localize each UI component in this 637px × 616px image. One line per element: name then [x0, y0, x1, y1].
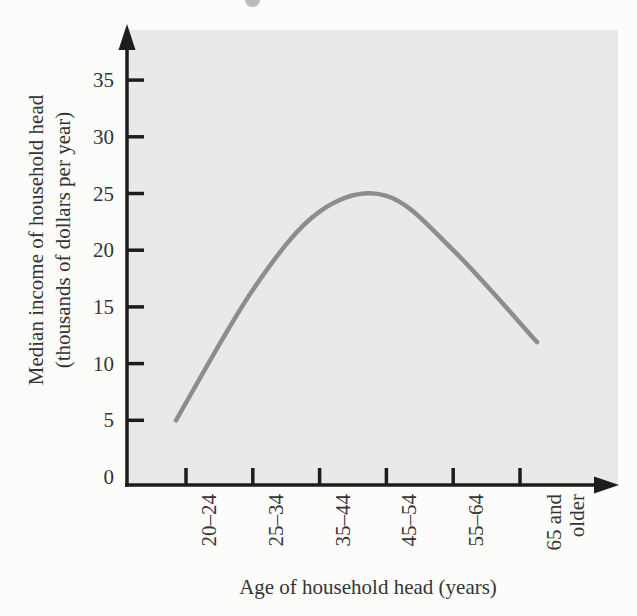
y-axis-title: Median income of household head (thousan… [23, 70, 77, 410]
y-tick-label: 25 [93, 181, 114, 207]
y-tick-label: 20 [93, 237, 114, 263]
y-tick-label: 15 [93, 294, 114, 320]
y-tick-label: 10 [93, 351, 114, 377]
y-tick-label: 0 [104, 464, 115, 490]
x-tick-label: 55–64 [465, 494, 488, 547]
plot-area [129, 30, 619, 485]
x-tick-label: 45–54 [398, 494, 421, 547]
y-tick-label: 5 [104, 407, 115, 433]
x-tick-label: 20–24 [198, 494, 221, 547]
income-age-chart-figure: Median income of household head (thousan… [0, 0, 637, 616]
x-axis-title: Age of household head (years) [128, 574, 608, 600]
y-tick-label: 35 [93, 67, 114, 93]
x-tick-label: 35–44 [331, 494, 354, 547]
x-tick-label: 25–34 [264, 494, 287, 547]
y-tick-label: 30 [93, 124, 114, 150]
plot-background [129, 30, 619, 485]
x-tick-label: 65 and older [543, 494, 589, 551]
